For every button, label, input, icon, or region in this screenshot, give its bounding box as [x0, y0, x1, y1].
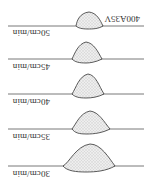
weld-bead	[72, 111, 110, 134]
bead-row-30	[8, 144, 144, 172]
weld-bead-diagram: 30cm/min 35cm/min 40cm/min 45cm/min 50cm…	[0, 0, 156, 184]
bead-row-35	[8, 111, 144, 134]
speed-label-35: 35cm/min	[13, 132, 50, 141]
bead-row-40	[8, 74, 144, 98]
weld-bead	[72, 74, 104, 98]
weld-bead	[76, 12, 103, 29]
weld-bead	[63, 144, 115, 172]
bead-row-45	[8, 42, 144, 63]
diagram-rotated-container: 30cm/min 35cm/min 40cm/min 45cm/min 50cm…	[0, 0, 156, 184]
speed-label-50: 50cm/min	[13, 28, 50, 37]
speed-label-40: 40cm/min	[13, 97, 50, 106]
weld-bead	[72, 42, 102, 63]
welding-parameters-label: 400A35V	[105, 14, 141, 23]
speed-label-45: 45cm/min	[13, 62, 50, 71]
speed-label-30: 30cm/min	[13, 169, 50, 178]
